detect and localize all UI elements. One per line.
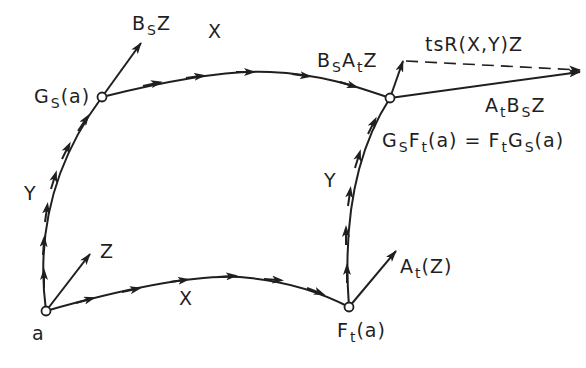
node-ft-a bbox=[345, 303, 354, 312]
atz-sub: t bbox=[415, 265, 421, 281]
eq-rhs-1-sub: t bbox=[501, 139, 507, 155]
label-z: Z bbox=[100, 242, 114, 261]
label-right-y: Y bbox=[324, 171, 337, 190]
label-ft-a-tail: (a) bbox=[356, 319, 385, 341]
tsr-dashed-arrow bbox=[406, 61, 580, 70]
eq-rhs-2-sub: S bbox=[525, 139, 534, 155]
label-corner-equation: GSFt(a) = FtGS(a) bbox=[382, 131, 564, 150]
atbsz-s2: S bbox=[522, 104, 531, 120]
bsatz-s2: t bbox=[357, 59, 363, 75]
atz-tail: (Z) bbox=[422, 255, 453, 277]
eq-lhs-1-sub: S bbox=[399, 139, 408, 155]
label-bsatz: BSAtZ bbox=[317, 51, 377, 70]
diagram-lines bbox=[0, 0, 586, 368]
z-vector-arrow bbox=[46, 254, 90, 311]
bsatz-vector-arrow bbox=[390, 61, 403, 98]
label-left-y: Y bbox=[24, 184, 37, 203]
eq-lhs-2-sub: t bbox=[422, 139, 428, 155]
eq-rhs-1: F bbox=[489, 129, 501, 151]
atbsz-tail: Z bbox=[531, 94, 545, 116]
label-gs-a-main: G bbox=[34, 85, 50, 107]
eq-lhs-2: F bbox=[409, 129, 421, 151]
eq-rhs-2: G bbox=[508, 129, 524, 151]
node-a bbox=[42, 307, 51, 316]
label-top-x: X bbox=[208, 22, 222, 41]
label-atbsz: AtBSZ bbox=[485, 96, 545, 115]
label-gs-a-tail: (a) bbox=[61, 85, 90, 107]
bsz-tail: Z bbox=[157, 12, 171, 34]
bottom-x-arrows bbox=[76, 276, 320, 303]
atbsz-s1: t bbox=[500, 104, 506, 120]
node-corner bbox=[386, 94, 395, 103]
bsz-sub: S bbox=[147, 22, 156, 38]
label-ft-a: Ft(a) bbox=[337, 321, 386, 340]
eq-lhs-1: G bbox=[382, 129, 398, 151]
eq-rhs-tail: (a) bbox=[535, 129, 564, 151]
atbsz-m2: B bbox=[507, 94, 521, 116]
label-gs-a-sub: S bbox=[51, 95, 60, 111]
atbsz-m1: A bbox=[485, 94, 499, 116]
label-ft-a-main: F bbox=[337, 319, 349, 341]
bsatz-m1: B bbox=[317, 49, 331, 71]
bsatz-tail: Z bbox=[363, 49, 377, 71]
diagram-canvas: a GS(a) Ft(a) GSFt(a) = FtGS(a) X X Y Y … bbox=[0, 0, 586, 368]
left-y-curve bbox=[43, 97, 102, 311]
bsatz-s1: S bbox=[332, 59, 341, 75]
label-atz: At(Z) bbox=[400, 257, 452, 276]
bsz-main: B bbox=[132, 12, 146, 34]
left-y-arrows bbox=[43, 119, 86, 288]
atz-vector-arrow bbox=[349, 251, 396, 307]
label-a: a bbox=[32, 324, 45, 343]
label-bsz: BSZ bbox=[132, 14, 171, 33]
label-tsr: tsR(X,Y)Z bbox=[425, 35, 523, 54]
right-y-arrows bbox=[346, 122, 374, 283]
node-gs-a bbox=[98, 93, 107, 102]
bsatz-m2: A bbox=[342, 49, 356, 71]
bottom-x-curve bbox=[46, 277, 349, 311]
atz-main: A bbox=[400, 255, 414, 277]
label-gs-a: GS(a) bbox=[34, 87, 90, 106]
label-bottom-x: X bbox=[179, 289, 193, 308]
label-ft-a-sub: t bbox=[350, 329, 356, 345]
eq-lhs-tail: (a) = bbox=[428, 129, 488, 151]
